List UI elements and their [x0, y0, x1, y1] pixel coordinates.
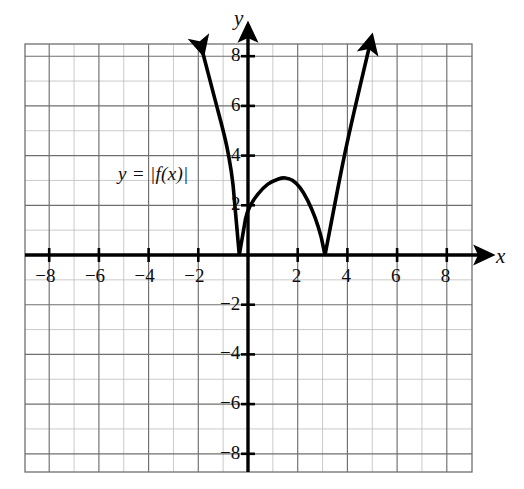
y-tick-label: −8	[220, 443, 240, 462]
x-tick-label: −4	[135, 266, 155, 285]
y-tick-label: 6	[231, 95, 241, 114]
x-tick-label: −2	[184, 266, 204, 285]
y-axis-label: y	[234, 8, 243, 29]
coordinate-plane	[0, 0, 524, 489]
x-tick-label: −6	[85, 266, 105, 285]
y-tick-label: −6	[220, 393, 240, 412]
y-tick-label: −2	[220, 294, 240, 313]
x-tick-label: 2	[292, 266, 302, 285]
y-tick-label: −4	[220, 343, 240, 362]
x-axis-label: x	[496, 246, 505, 267]
y-tick-label: 2	[231, 194, 241, 213]
y-tick-label: 4	[231, 145, 241, 164]
x-tick-label: 4	[341, 266, 351, 285]
curve-equation-label: y = |f(x)|	[118, 164, 189, 183]
x-tick-label: 8	[441, 266, 451, 285]
y-tick-label: 8	[231, 45, 241, 64]
graph-figure: −8−6−4−22468 8642−2−4−6−8 x y y = |f(x)|	[0, 0, 524, 489]
x-tick-label: 6	[391, 266, 401, 285]
x-tick-label: −8	[35, 266, 55, 285]
